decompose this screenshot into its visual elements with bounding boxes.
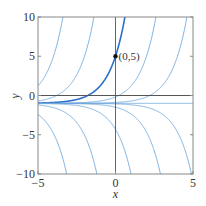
y-tick-label: −5 xyxy=(22,128,35,142)
y-tick-label: 0 xyxy=(29,89,35,103)
chart: −10−50510−505 (0,5) x y xyxy=(0,0,206,206)
point-label: (0,5) xyxy=(119,50,140,63)
y-axis-label: y xyxy=(8,93,22,100)
y-tick-label: 5 xyxy=(29,49,35,63)
zero-axes xyxy=(38,17,193,174)
point-marker xyxy=(113,54,117,58)
x-tick-label: −5 xyxy=(32,176,45,190)
x-tick-label: 5 xyxy=(190,176,196,190)
x-axis-label: x xyxy=(112,187,119,201)
y-tick-label: 10 xyxy=(23,10,35,24)
